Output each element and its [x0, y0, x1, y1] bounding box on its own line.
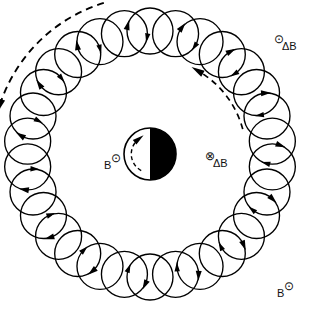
delta-b-outside-topright-base: ΔB	[282, 40, 297, 52]
delta-b-inside-right-base: ΔB	[213, 157, 228, 169]
central-body	[124, 128, 176, 180]
dot-in-circle-icon: ⊙	[284, 279, 294, 293]
dot-in-circle-icon: ⊙	[111, 151, 121, 165]
b-field-outside-bottomright-label: B⊙	[277, 280, 294, 296]
delta-b-inside-right-label: ⊗ΔB	[205, 150, 230, 166]
caption-strip	[0, 314, 322, 323]
b-field-left-label: B⊙	[104, 152, 121, 168]
delta-b-outside-topright-label: ⊙ΔB	[274, 33, 299, 49]
